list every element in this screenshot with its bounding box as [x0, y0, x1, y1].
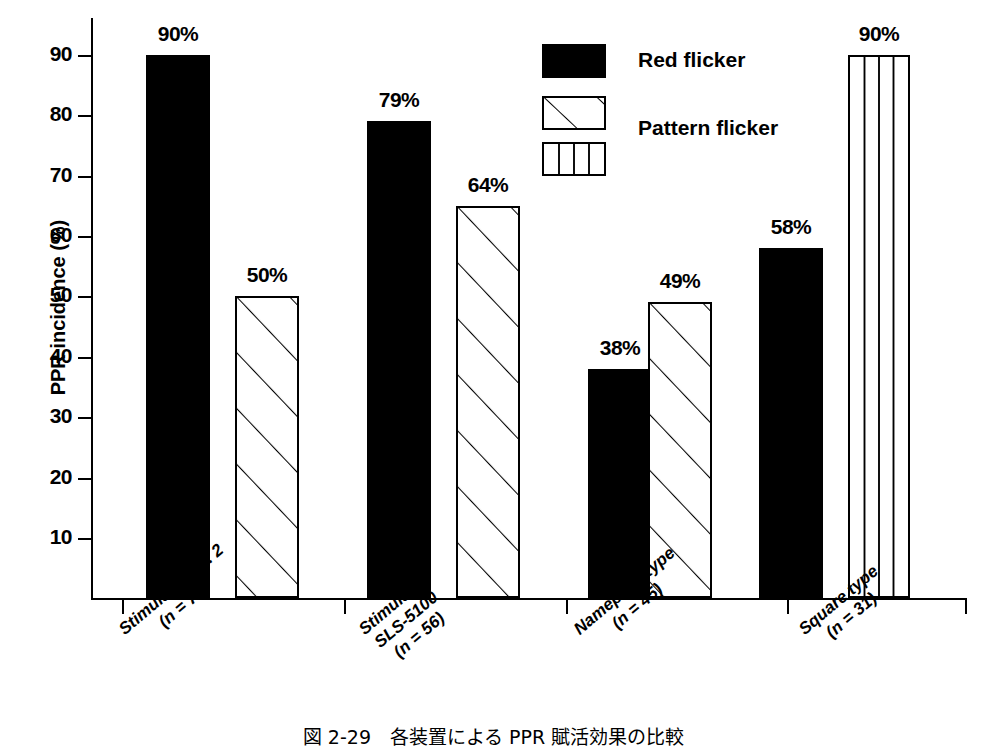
y-tick-label: 60 — [28, 223, 72, 247]
x-tick-mark — [965, 600, 967, 614]
bar-red-flicker-square — [759, 248, 823, 598]
bar-pattern-flicker-stimulator-no2 — [235, 296, 299, 598]
y-axis-line — [91, 18, 93, 600]
y-tick-mark — [78, 478, 91, 480]
y-tick-label: 30 — [28, 404, 72, 428]
y-tick-mark — [78, 538, 91, 540]
bar-value-label: 64% — [438, 173, 538, 197]
legend-swatch-diagonal-hatch-icon — [542, 96, 606, 130]
figure-caption: 図 2-29 各装置による PPR 賦活効果の比較 — [0, 722, 987, 749]
legend-swatch-solid-black-icon — [542, 44, 606, 78]
bar-value-label: 58% — [741, 215, 841, 239]
y-tick-label: 10 — [28, 525, 72, 549]
y-tick-label: 80 — [28, 102, 72, 126]
x-tick-mark — [787, 600, 789, 614]
y-tick-label: 40 — [28, 344, 72, 368]
diagonal-hatch-icon — [458, 208, 518, 596]
y-tick-label: 90 — [28, 42, 72, 66]
bar-red-flicker-sls5100 — [367, 121, 431, 598]
legend-label-pattern-flicker: Pattern flicker — [638, 116, 778, 140]
vertical-stripe-icon — [544, 144, 604, 174]
bar-pattern-flicker-sls5100 — [456, 206, 520, 598]
y-tick-mark — [78, 55, 91, 57]
y-tick-mark — [78, 417, 91, 419]
diagonal-hatch-icon — [237, 298, 297, 596]
bar-value-label: 50% — [217, 263, 317, 287]
legend-swatch-vertical-stripe-icon — [542, 142, 606, 176]
y-tick-label: 50 — [28, 283, 72, 307]
x-tick-mark — [122, 600, 124, 614]
x-tick-mark — [566, 600, 568, 614]
y-tick-mark — [78, 115, 91, 117]
y-tick-mark — [78, 357, 91, 359]
y-tick-mark — [78, 236, 91, 238]
x-tick-mark — [344, 600, 346, 614]
y-tick-mark — [78, 296, 91, 298]
bar-value-label: 90% — [128, 22, 228, 46]
y-tick-label: 20 — [28, 465, 72, 489]
bar-value-label: 49% — [630, 269, 730, 293]
y-tick-label: 70 — [28, 163, 72, 187]
legend-label-red-flicker: Red flicker — [638, 48, 745, 72]
diagonal-hatch-icon — [544, 98, 604, 128]
legend: Red flicker Pattern flicker — [542, 38, 872, 188]
bar-red-flicker-stimulator-no2 — [146, 55, 210, 598]
y-tick-mark — [78, 176, 91, 178]
bar-value-label: 79% — [349, 88, 449, 112]
